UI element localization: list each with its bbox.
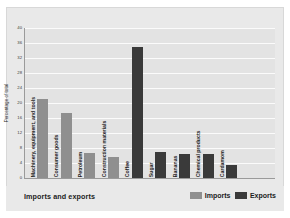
bar <box>179 154 190 178</box>
y-axis-title: Percentage of total <box>5 84 10 123</box>
legend-label: Imports <box>205 192 231 199</box>
chart-legend: ImportsExports <box>190 192 276 199</box>
x-axis-category-label: Bananas <box>172 155 177 177</box>
legend-item[interactable]: Imports <box>190 192 230 199</box>
y-axis-tick-label: 20 <box>17 101 22 105</box>
x-axis-category-label: Sugar <box>149 162 154 177</box>
chart-footer: Imports and exports ImportsExports <box>6 186 284 211</box>
bars-container: Machinery, equipment, and toolsConsumer … <box>24 28 275 178</box>
y-axis-tick-label: 40 <box>17 26 22 30</box>
bar-group: Bananas <box>179 28 190 178</box>
bar <box>155 152 166 178</box>
x-axis-category-label: Consumer goods <box>54 134 59 177</box>
y-axis-tick-label: 24 <box>17 86 22 90</box>
bar <box>226 165 237 178</box>
legend-swatch <box>235 192 247 199</box>
bar <box>108 157 119 178</box>
bar-group: Coffee <box>132 28 143 178</box>
y-axis-tick-label: 28 <box>17 71 22 75</box>
bar <box>84 153 95 178</box>
bar-group: Machinery, equipment, and tools <box>37 28 48 178</box>
legend-label: Exports <box>250 192 276 199</box>
x-axis-category-label: Petroleum <box>78 152 83 177</box>
bar <box>132 47 143 178</box>
y-axis-tick-label: 36 <box>17 41 22 45</box>
x-axis-line <box>24 178 275 179</box>
chart-figure: 0481216202428323640 Percentage of total … <box>0 0 290 218</box>
y-axis-tick-label: 16 <box>17 116 22 120</box>
bar-group: Construction materials <box>108 28 119 178</box>
bar-group: Sugar <box>155 28 166 178</box>
bar-group: Consumer goods <box>61 28 72 178</box>
y-axis-tick-label: 8 <box>20 146 22 150</box>
bar <box>203 154 214 178</box>
bar <box>37 99 48 178</box>
y-axis-tick-label: 4 <box>20 161 22 165</box>
bar <box>61 113 72 178</box>
bar-group: Cardamom <box>226 28 237 178</box>
x-axis-category-label: Construction materials <box>101 121 106 178</box>
y-axis-tick-label: 0 <box>20 176 22 180</box>
bar-group: Chemical products <box>203 28 214 178</box>
y-axis-tick-label: 12 <box>17 131 22 135</box>
y-axis-tick-label: 32 <box>17 56 22 60</box>
x-axis-category-label: Cardamom <box>220 150 225 177</box>
x-axis-category-label: Machinery, equipment, and tools <box>30 97 35 177</box>
legend-item[interactable]: Exports <box>235 192 276 199</box>
legend-swatch <box>190 192 202 199</box>
x-axis-category-label: Coffee <box>125 161 130 177</box>
bar-group: Petroleum <box>84 28 95 178</box>
chart-title: Imports and exports <box>24 192 95 201</box>
x-axis-category-label: Chemical products <box>196 130 201 177</box>
